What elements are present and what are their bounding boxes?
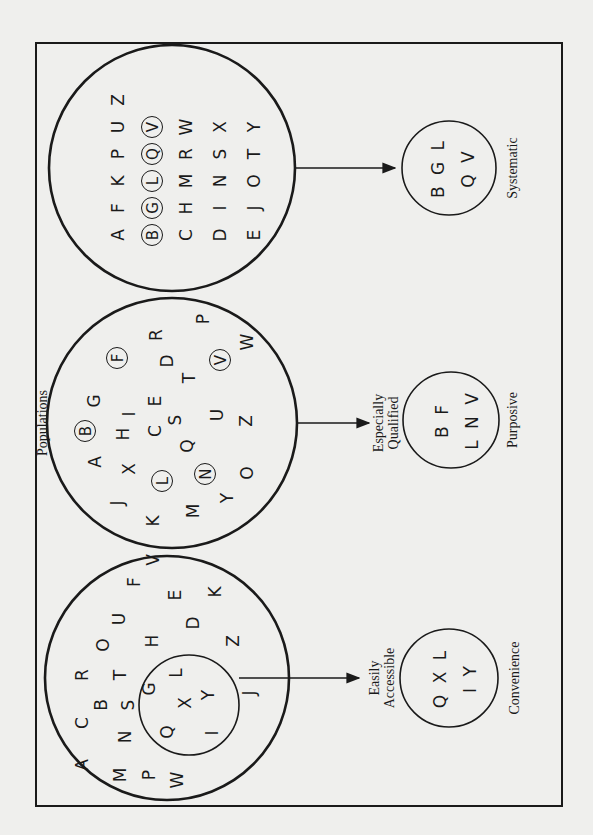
population-letter-circled: B (141, 224, 163, 246)
population-letter: R (175, 143, 197, 165)
population-letter: B (90, 694, 112, 716)
population-letter: S (209, 143, 231, 165)
population-letter: X (118, 458, 140, 480)
population-letter: S (117, 694, 139, 716)
systematic-sample: B G L Q V (423, 138, 483, 198)
population-letter: O (236, 462, 258, 484)
population-letter: C (175, 224, 197, 246)
population-letter: I (209, 197, 231, 219)
population-letter-circled: F (106, 347, 128, 369)
purposive-sample: B F L N V (427, 390, 487, 450)
population-letter: P (107, 143, 129, 165)
population-letter: E (144, 390, 166, 412)
population-letter: D (209, 224, 231, 246)
subgroup-letter: Y (197, 684, 219, 706)
convenience-arrow-label-line1: Easily (367, 648, 382, 709)
population-letter: J (106, 492, 128, 514)
population-letter: N (114, 726, 136, 748)
population-letter: O (243, 170, 265, 192)
population-letter: A (107, 224, 129, 246)
population-letter: K (204, 581, 226, 603)
population-letter: R (71, 664, 93, 686)
subgroup-letter: I (201, 722, 223, 744)
population-letter: G (138, 678, 160, 700)
population-letter-circled: Q (141, 143, 163, 165)
population-letter: C (144, 420, 166, 442)
population-letter: V (142, 549, 164, 571)
population-letter: R (145, 324, 167, 346)
population-letter: H (175, 197, 197, 219)
convenience-arrow-label-line2: Accessible (382, 648, 397, 709)
population-letter-circled: V (141, 116, 163, 138)
population-letter: M (109, 764, 131, 786)
population-letter: J (243, 197, 265, 219)
population-letter: H (141, 630, 163, 652)
population-letter-circled: L (151, 470, 173, 492)
population-letter-circled: G (141, 197, 163, 219)
population-letter: U (206, 404, 228, 426)
population-letter: T (178, 367, 200, 389)
population-letter: F (107, 197, 129, 219)
population-letter: T (243, 143, 265, 165)
population-letter: P (138, 764, 160, 786)
population-letter: H (112, 423, 134, 445)
systematic-sample-row1: B G L (423, 138, 453, 198)
population-letter: W (166, 769, 188, 791)
population-letter: X (209, 116, 231, 138)
population-letter: N (209, 170, 231, 192)
systematic-method-label: Systematic (505, 137, 520, 198)
population-letter-circled: B (74, 420, 96, 442)
population-letter: K (107, 170, 129, 192)
purposive-arrow-label-line2: Qualified (386, 394, 401, 452)
population-letter-circled: L (141, 170, 163, 192)
systematic-sample-row2: Q V (453, 138, 483, 198)
subgroup-letter: Q (156, 721, 178, 743)
convenience-sample-row2: I Y (455, 648, 485, 708)
subgroup-letter: L (165, 662, 187, 684)
population-letter: J (238, 682, 260, 704)
purposive-method-label: Purposive (505, 392, 520, 448)
population-letter-circled: N (194, 463, 216, 485)
convenience-method-label: Convenience (507, 641, 522, 714)
diagram-canvas: Populations ACRMNBSTOUFVPGHEKDWZJ QXLIY … (37, 44, 561, 805)
diagram-frame: Populations ACRMNBSTOUFVPGHEKDWZJ QXLIY … (35, 42, 563, 807)
population-letter: E (243, 224, 265, 246)
population-letter: F (123, 571, 145, 593)
convenience-sample-row1: Q X L (425, 648, 455, 708)
population-letter: S (164, 409, 186, 431)
convenience-arrow-label: Easily Accessible (367, 648, 397, 709)
population-letter: D (156, 350, 178, 372)
purposive-arrow-label: Especially Qualified (371, 394, 401, 452)
population-letter-circled: V (209, 349, 231, 371)
population-letter: A (71, 754, 93, 776)
population-letter: I (118, 403, 140, 425)
population-letter: W (175, 116, 197, 138)
population-letter: K (142, 510, 164, 532)
population-letter: M (182, 500, 204, 522)
population-letter: U (108, 608, 130, 630)
population-letter: D (182, 612, 204, 634)
population-letter: U (107, 116, 129, 138)
population-letter: T (109, 664, 131, 686)
populations-heading: Populations (35, 390, 50, 456)
population-letter: Z (235, 410, 257, 432)
purposive-sample-row2: L N V (457, 390, 487, 450)
population-letter: G (83, 390, 105, 412)
purposive-arrow-label-line1: Especially (371, 394, 386, 452)
purposive-sample-row1: B F (427, 390, 457, 450)
population-letter: M (175, 170, 197, 192)
population-letter: O (92, 634, 114, 656)
subgroup-letter: X (174, 692, 196, 714)
population-letter: P (192, 308, 214, 330)
population-letter: W (236, 331, 258, 353)
systematic-population-circle (49, 45, 295, 291)
population-letter: E (164, 584, 186, 606)
population-letter: Z (222, 630, 244, 652)
population-letter: Z (107, 89, 129, 111)
population-letter: Q (176, 435, 198, 457)
population-letter: Y (216, 487, 238, 509)
population-letter: A (84, 451, 106, 473)
convenience-sample: Q X L I Y (425, 648, 485, 708)
population-letter: Y (243, 116, 265, 138)
